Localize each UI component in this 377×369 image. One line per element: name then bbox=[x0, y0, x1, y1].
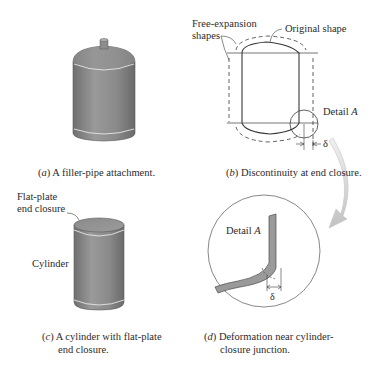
caption-a-letter: a bbox=[42, 167, 47, 178]
flat-plate-label-line1: Flat-plate bbox=[17, 191, 57, 202]
caption-b-text: Discontinuity at end closure. bbox=[238, 167, 361, 178]
free-expansion-label-line1: Free-expansion bbox=[192, 18, 257, 29]
caption-b: (b) Discontinuity at end closure. bbox=[226, 166, 362, 179]
caption-c-line2: end closure. bbox=[42, 344, 109, 355]
flat-plate-label-line2: end closure bbox=[17, 203, 65, 214]
detail-a-label-b: Detail A bbox=[323, 106, 358, 118]
caption-a-text: A filler-pipe attachment. bbox=[50, 167, 155, 178]
delta-label-b: δ bbox=[323, 138, 328, 150]
caption-a: (a) A filler-pipe attachment. bbox=[38, 166, 155, 179]
filler-pipe-vessel bbox=[73, 38, 135, 141]
free-expansion-label: Free-expansion shapes bbox=[192, 18, 257, 42]
caption-c: (c) A cylinder with flat-plate end closu… bbox=[42, 330, 162, 356]
cylinder-label: Cylinder bbox=[32, 258, 69, 270]
caption-d-letter: d bbox=[208, 331, 213, 342]
original-shape-label: Original shape bbox=[285, 23, 347, 35]
detail-a-label-d: Detail A bbox=[226, 225, 261, 237]
caption-c-letter: c bbox=[46, 331, 51, 342]
detail-arrow bbox=[329, 138, 348, 228]
detail-prefix: Detail bbox=[323, 106, 351, 117]
caption-d: (d) Deformation near cylinder- closure j… bbox=[204, 330, 334, 356]
detail-a-zoom bbox=[208, 195, 320, 307]
flat-plate-cylinder bbox=[67, 213, 124, 310]
flat-plate-label: Flat-plate end closure bbox=[17, 191, 65, 215]
caption-d-line1: Deformation near cylinder- bbox=[216, 331, 333, 342]
discontinuity-diagram bbox=[221, 29, 321, 150]
figure-canvas bbox=[0, 0, 377, 369]
detail-letter: A bbox=[254, 225, 260, 236]
detail-letter: A bbox=[351, 106, 357, 117]
detail-prefix: Detail bbox=[226, 225, 254, 236]
free-expansion-label-line2: shapes bbox=[192, 30, 220, 41]
delta-label-d: δ bbox=[270, 291, 275, 303]
caption-c-line1: A cylinder with flat-plate bbox=[54, 331, 162, 342]
caption-d-line2: closure junction. bbox=[204, 344, 290, 355]
caption-b-letter: b bbox=[230, 167, 235, 178]
